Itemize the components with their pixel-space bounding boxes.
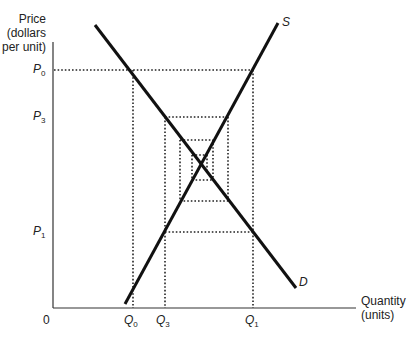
demand-curve [95, 25, 296, 288]
p0-label: P0 [33, 63, 45, 80]
demand-label: D [299, 276, 308, 289]
cobweb-diagram [0, 0, 412, 339]
x-axis-title: Quantity (units) [361, 294, 406, 322]
p1-label: P1 [33, 225, 45, 242]
supply-label: S [282, 16, 290, 29]
origin-label: 0 [43, 314, 50, 327]
q3-label: Q3 [156, 314, 170, 331]
supply-curve [125, 23, 278, 304]
cobweb-path [54, 70, 253, 308]
q0-label: Q0 [124, 314, 138, 331]
p3-label: P3 [33, 110, 45, 127]
y-axis-title: Price (dollars per unit) [0, 12, 46, 54]
q1-label: Q1 [245, 314, 259, 331]
